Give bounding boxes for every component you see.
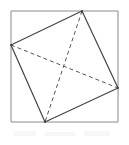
top-vertex: [81, 10, 83, 12]
bottom-vertex: [44, 121, 46, 123]
scan-artifact: [45, 132, 75, 136]
scan-artifact: [14, 131, 36, 136]
right-vertex: [117, 87, 119, 89]
geometry-canvas: [0, 0, 129, 145]
geometric-figure: [0, 0, 129, 145]
scan-artifact: [84, 131, 110, 136]
figure-background: [0, 0, 129, 145]
left-vertex: [10, 44, 12, 46]
